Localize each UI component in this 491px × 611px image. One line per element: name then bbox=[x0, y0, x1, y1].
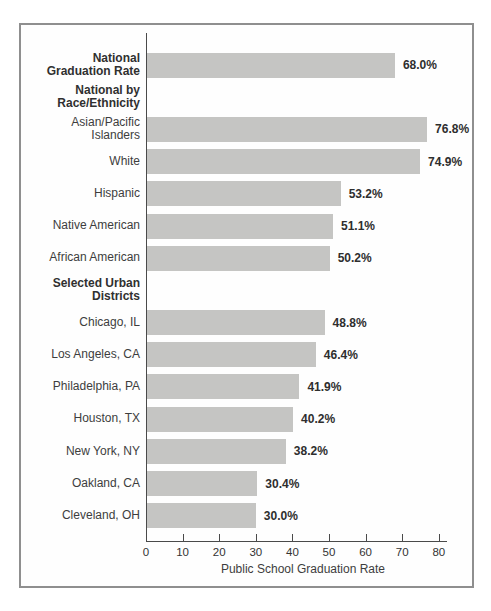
category-label-cleveland-oh: Cleveland, OH bbox=[21, 509, 146, 523]
bar-area: 50.2% bbox=[146, 242, 472, 274]
value-label-new-york-ny: 38.2% bbox=[294, 444, 328, 458]
x-tick-label-10: 10 bbox=[170, 546, 196, 558]
bar-row-asian-pacific-islanders: Asian/Pacific Islanders76.8% bbox=[21, 113, 472, 145]
bar-white bbox=[146, 149, 420, 174]
bar-philadelphia-pa bbox=[146, 374, 299, 399]
x-axis-title: Public School Graduation Rate bbox=[155, 562, 451, 576]
bar-area: 51.1% bbox=[146, 210, 472, 242]
value-label-philadelphia-pa: 41.9% bbox=[307, 380, 341, 394]
value-label-oakland-ca: 30.4% bbox=[265, 477, 299, 491]
x-tick-label-30: 30 bbox=[243, 546, 269, 558]
category-label-los-angeles-ca: Los Angeles, CA bbox=[21, 348, 146, 362]
bar-houston-tx bbox=[146, 407, 293, 432]
value-label-los-angeles-ca: 46.4% bbox=[324, 348, 358, 362]
bar-row-african-american: African American50.2% bbox=[21, 242, 472, 274]
x-axis-baseline bbox=[146, 534, 447, 542]
category-label-philadelphia-pa: Philadelphia, PA bbox=[21, 380, 146, 394]
bar-row-national-graduation-rate: NationalGraduation Rate68.0% bbox=[21, 49, 472, 81]
category-label-native-american: Native American bbox=[21, 219, 146, 233]
category-label-white: White bbox=[21, 155, 146, 169]
bar-area: 76.8% bbox=[146, 113, 472, 145]
category-label-african-american: African American bbox=[21, 251, 146, 265]
x-tick-label-80: 80 bbox=[426, 546, 452, 558]
category-label-chicago-il: Chicago, IL bbox=[21, 316, 146, 330]
bar-cleveland-oh bbox=[146, 503, 256, 528]
bar-area: 41.9% bbox=[146, 371, 472, 403]
bar-area: 68.0% bbox=[146, 49, 472, 81]
bar-row-philadelphia-pa: Philadelphia, PA41.9% bbox=[21, 371, 472, 403]
bar-area: 30.4% bbox=[146, 467, 472, 499]
category-label-national-graduation-rate: NationalGraduation Rate bbox=[21, 52, 146, 79]
x-tick-80 bbox=[439, 534, 440, 541]
bar-area: 38.2% bbox=[146, 435, 472, 467]
category-label-houston-tx: Houston, TX bbox=[21, 412, 146, 426]
bar-african-american bbox=[146, 246, 330, 271]
x-tick-label-0: 0 bbox=[133, 546, 159, 558]
x-tick-40 bbox=[292, 534, 293, 541]
x-tick-label-20: 20 bbox=[206, 546, 232, 558]
value-label-hispanic: 53.2% bbox=[349, 187, 383, 201]
bar-area: 53.2% bbox=[146, 178, 472, 210]
bar-native-american bbox=[146, 214, 333, 239]
bar-row-native-american: Native American51.1% bbox=[21, 210, 472, 242]
category-label-asian-pacific-islanders: Asian/Pacific Islanders bbox=[21, 116, 146, 143]
category-label-oakland-ca: Oakland, CA bbox=[21, 477, 146, 491]
x-tick-60 bbox=[366, 534, 367, 541]
header-row-selected-urban-districts: Selected UrbanDistricts bbox=[21, 274, 472, 306]
bar-row-los-angeles-ca: Los Angeles, CA46.4% bbox=[21, 339, 472, 371]
bar-los-angeles-ca bbox=[146, 342, 316, 367]
bar-area: 30.0% bbox=[146, 500, 472, 532]
bar-row-chicago-il: Chicago, IL48.8% bbox=[21, 307, 472, 339]
x-tick-label-70: 70 bbox=[389, 546, 415, 558]
header-row-national-by-race-ethnicity: National byRace/Ethnicity bbox=[21, 81, 472, 113]
bar-area: 46.4% bbox=[146, 339, 472, 371]
bar-area: 48.8% bbox=[146, 307, 472, 339]
bar-hispanic bbox=[146, 181, 341, 206]
value-label-national-graduation-rate: 68.0% bbox=[403, 58, 437, 72]
x-tick-label-40: 40 bbox=[279, 546, 305, 558]
value-label-native-american: 51.1% bbox=[341, 219, 375, 233]
page-background: NationalGraduation Rate68.0%National byR… bbox=[0, 0, 491, 611]
x-tick-20 bbox=[219, 534, 220, 541]
bar-area: 74.9% bbox=[146, 146, 472, 178]
x-tick-10 bbox=[183, 534, 184, 541]
bar-row-cleveland-oh: Cleveland, OH30.0% bbox=[21, 500, 472, 532]
category-label-new-york-ny: New York, NY bbox=[21, 445, 146, 459]
chart-frame: NationalGraduation Rate68.0%National byR… bbox=[19, 23, 474, 588]
category-label-hispanic: Hispanic bbox=[21, 187, 146, 201]
x-tick-70 bbox=[402, 534, 403, 541]
value-label-white: 74.9% bbox=[428, 155, 462, 169]
y-axis-line bbox=[146, 33, 147, 542]
bar-national-graduation-rate bbox=[146, 53, 395, 78]
x-tick-label-60: 60 bbox=[353, 546, 379, 558]
bar-row-white: White74.9% bbox=[21, 146, 472, 178]
value-label-african-american: 50.2% bbox=[338, 251, 372, 265]
value-label-cleveland-oh: 30.0% bbox=[264, 509, 298, 523]
bar-row-hispanic: Hispanic53.2% bbox=[21, 178, 472, 210]
bar-area: 40.2% bbox=[146, 403, 472, 435]
x-tick-50 bbox=[329, 534, 330, 541]
value-label-houston-tx: 40.2% bbox=[301, 412, 335, 426]
bar-row-oakland-ca: Oakland, CA30.4% bbox=[21, 467, 472, 499]
bar-new-york-ny bbox=[146, 439, 286, 464]
value-label-chicago-il: 48.8% bbox=[333, 316, 367, 330]
bar-row-new-york-ny: New York, NY38.2% bbox=[21, 435, 472, 467]
bar-oakland-ca bbox=[146, 471, 257, 496]
section-header-selected-urban-districts: Selected UrbanDistricts bbox=[21, 277, 146, 304]
x-tick-30 bbox=[256, 534, 257, 541]
bar-asian-pacific-islanders bbox=[146, 117, 427, 142]
value-label-asian-pacific-islanders: 76.8% bbox=[435, 122, 469, 136]
bar-row-houston-tx: Houston, TX40.2% bbox=[21, 403, 472, 435]
x-tick-label-50: 50 bbox=[316, 546, 342, 558]
bar-chicago-il bbox=[146, 310, 325, 335]
section-header-national-by-race-ethnicity: National byRace/Ethnicity bbox=[21, 84, 146, 111]
bar-rows-container: NationalGraduation Rate68.0%National byR… bbox=[21, 49, 472, 532]
